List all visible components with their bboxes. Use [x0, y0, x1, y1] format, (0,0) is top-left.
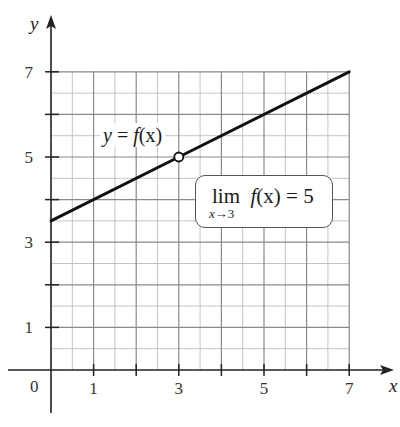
y-tick-label: 7: [25, 63, 34, 82]
y-tick-label: 1: [25, 318, 34, 337]
x-tick-label: 7: [345, 379, 354, 398]
y-tick-label: 5: [25, 148, 34, 167]
origin-label: 0: [30, 377, 39, 396]
curve-label-arg: (x): [139, 124, 162, 146]
x-tick-label: 3: [175, 379, 184, 398]
lim-eq: = 5: [281, 184, 314, 208]
open-circle-points: [174, 153, 183, 162]
x-tick-label: 5: [260, 379, 269, 398]
curve-label-eq: =: [112, 124, 133, 146]
y-tick-label: 3: [25, 233, 34, 252]
open-circle: [174, 153, 183, 162]
curve-label-y: y: [103, 124, 112, 146]
y-axis-label: y: [28, 13, 39, 34]
x-axis-label: x: [388, 375, 398, 396]
x-tick-label: 1: [89, 379, 98, 398]
lim-arg: (x): [256, 184, 281, 208]
tick-labels: 13571357: [25, 63, 354, 398]
lim-word: lim: [212, 184, 240, 208]
lim-sub-arrow: →3: [215, 206, 235, 221]
limit-annotation-box: lim f(x) = 5 x→3: [195, 175, 333, 228]
limit-subscript: x→3: [209, 206, 234, 222]
curve-equation-label: y = f(x): [100, 123, 165, 147]
